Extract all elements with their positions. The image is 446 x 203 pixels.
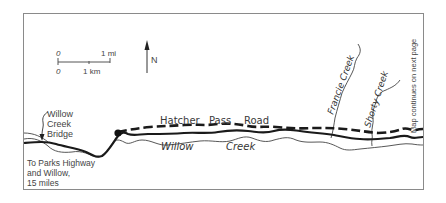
bridge-label-line2: Creek — [47, 119, 72, 129]
to-parks-label-line2: and Willow, — [27, 168, 70, 178]
bridge-label-line1: Willow — [47, 109, 73, 119]
scale-zero-km: 0 — [56, 67, 61, 76]
scale-1mi: 1 mi — [101, 49, 116, 58]
north-arrow-icon: N — [145, 40, 158, 73]
creek-label-creek: Creek — [226, 141, 256, 152]
bridge-pointer-arrow-icon — [40, 134, 45, 141]
willow-creek-bank — [24, 133, 48, 142]
map-continues-note: Map continues on next page — [409, 39, 418, 133]
road-label-pass: Pass — [209, 115, 231, 126]
trail-map: 0 1 mi 0 1 km N Willow Creek Bridge To P… — [0, 0, 446, 203]
shorty-creek-label: Shorty Creek — [362, 69, 390, 129]
scale-1km: 1 km — [83, 67, 101, 76]
trailhead-marker — [114, 129, 121, 136]
scale-zero-mi: 0 — [56, 49, 61, 58]
road-label-hatcher: Hatcher — [160, 115, 201, 126]
bridge-label-line3: Bridge — [47, 129, 73, 139]
road-label-road: Road — [244, 115, 269, 126]
francie-creek-label: Francie Creek — [325, 53, 356, 116]
north-label: N — [151, 55, 158, 65]
to-parks-label-line3: 15 miles — [27, 178, 59, 188]
to-parks-label-line1: To Parks Highway — [27, 158, 96, 168]
scale-bar: 0 1 mi 0 1 km — [56, 49, 116, 76]
creek-label-willow: Willow — [161, 141, 194, 152]
